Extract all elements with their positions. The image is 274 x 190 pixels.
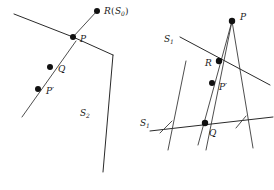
label-s1-lower-sub: 1: [146, 122, 150, 129]
label-left-p-prime: P′: [45, 86, 54, 96]
dot-r-s0: [94, 8, 100, 14]
label-s2-sub: 2: [85, 112, 90, 119]
label-right-r: R: [204, 58, 212, 68]
dot-right-q: [202, 120, 208, 126]
label-s1-upper-sub: 1: [170, 38, 174, 45]
label-right-p-prime: P′: [218, 82, 227, 92]
label-left-p: P: [79, 34, 87, 44]
dot-right-p: [229, 18, 235, 24]
label-right-p: P: [239, 12, 247, 22]
figure-root: R ( S 0 ) P Q P′ S 2: [0, 0, 274, 190]
label-left-q: Q: [58, 64, 66, 74]
dot-right-r: [216, 58, 222, 64]
dot-q: [47, 64, 53, 70]
dot-right-p-prime: [209, 80, 215, 86]
figure-canvas: R ( S 0 ) P Q P′ S 2: [0, 0, 274, 190]
dot-p: [70, 34, 76, 40]
dot-p-prime: [35, 86, 41, 92]
label-r-s0-base: R: [103, 6, 111, 16]
label-r-s0-open-paren: (: [111, 6, 115, 16]
label-r-s0: R ( S 0 ): [103, 6, 129, 17]
label-r-s0-close-paren: ): [125, 6, 129, 16]
label-right-q: Q: [209, 128, 217, 138]
